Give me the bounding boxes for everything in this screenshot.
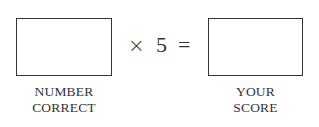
label-line: CORRECT	[8, 100, 120, 116]
number-correct-label: NUMBER CORRECT	[8, 84, 120, 116]
label-line: NUMBER	[8, 84, 120, 100]
multiplier-value: 5	[156, 33, 167, 57]
multiply-sign: ×	[128, 33, 145, 57]
number-correct-input-box[interactable]	[16, 18, 112, 76]
label-line: YOUR	[200, 84, 311, 100]
equals-sign: =	[178, 33, 190, 57]
label-line: SCORE	[200, 100, 311, 116]
your-score-input-box[interactable]	[208, 18, 303, 76]
your-score-label: YOUR SCORE	[200, 84, 311, 116]
